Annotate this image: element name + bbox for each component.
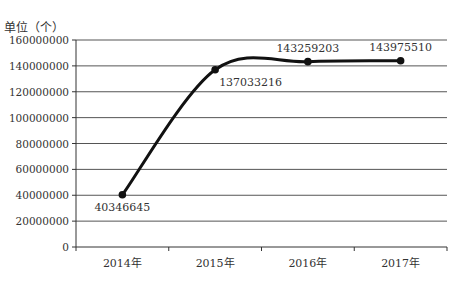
data-label: 40346645 bbox=[94, 201, 150, 214]
y-tick-label: 140000000 bbox=[9, 60, 69, 72]
data-label: 143975510 bbox=[369, 41, 432, 54]
y-tick-label: 60000000 bbox=[16, 163, 69, 175]
x-tick-label: 2017年 bbox=[381, 256, 420, 270]
x-tick-label: 2016年 bbox=[288, 256, 327, 270]
data-point-marker bbox=[397, 57, 405, 65]
y-tick-label: 40000000 bbox=[16, 189, 69, 201]
y-tick-label: 20000000 bbox=[16, 215, 69, 227]
y-tick-label: 0 bbox=[62, 241, 69, 253]
data-point-marker bbox=[211, 66, 219, 74]
x-tick-label: 2014年 bbox=[103, 256, 142, 270]
y-tick-label: 160000000 bbox=[9, 34, 69, 46]
data-point-marker bbox=[119, 191, 127, 199]
y-tick-label: 80000000 bbox=[16, 138, 69, 150]
data-label: 143259203 bbox=[276, 42, 339, 55]
line-chart: 0200000004000000060000000800000001000000… bbox=[0, 0, 471, 285]
x-tick-label: 2015年 bbox=[196, 256, 235, 270]
data-point-marker bbox=[304, 58, 312, 66]
data-label: 137033216 bbox=[219, 76, 282, 89]
y-tick-label: 100000000 bbox=[9, 112, 69, 124]
y-tick-label: 120000000 bbox=[9, 86, 69, 98]
